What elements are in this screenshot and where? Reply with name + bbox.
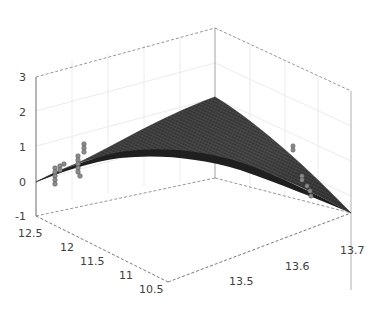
y-axis: 12.5 12 11.5 11 10.5 bbox=[18, 227, 164, 296]
z-tick-1: 1 bbox=[19, 141, 26, 154]
x-tick-13.6: 13.6 bbox=[285, 260, 310, 273]
y-tick-12: 12 bbox=[60, 241, 74, 254]
surface-mesh bbox=[36, 97, 351, 213]
y-tick-11: 11 bbox=[119, 269, 133, 282]
z-tick-neg1: -1 bbox=[15, 210, 26, 223]
z-tick-2: 2 bbox=[19, 106, 26, 119]
z-axis: 3 2 1 0 -1 bbox=[15, 71, 26, 223]
y-tick-12.5: 12.5 bbox=[18, 227, 43, 240]
z-tick-3: 3 bbox=[19, 71, 26, 84]
z-tick-0: 0 bbox=[19, 176, 26, 189]
x-axis: 13.5 13.6 13.7 bbox=[229, 244, 365, 288]
x-tick-13.7: 13.7 bbox=[340, 244, 365, 257]
y-tick-11.5: 11.5 bbox=[80, 255, 105, 268]
x-tick-13.5: 13.5 bbox=[229, 275, 254, 288]
y-tick-10.5: 10.5 bbox=[139, 283, 164, 296]
surface-plot-3d: 3 2 1 0 -1 12.5 12 11.5 11 10.5 13.5 13.… bbox=[0, 0, 379, 313]
